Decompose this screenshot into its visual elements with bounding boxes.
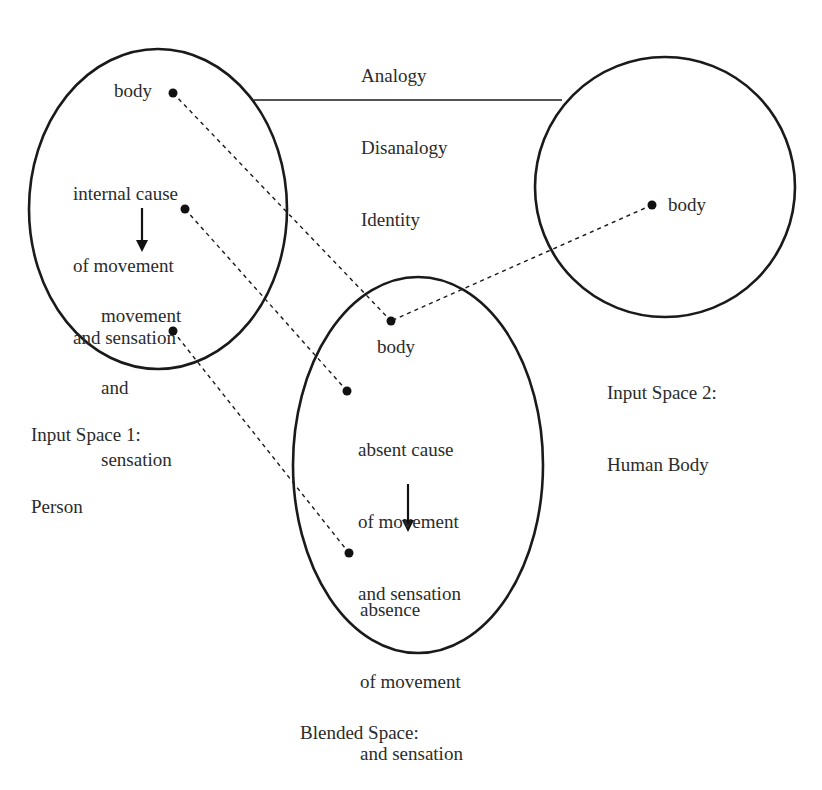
- text-line: of movement: [358, 510, 461, 534]
- text-line: movement: [101, 304, 181, 328]
- projection-cause-to-blend: [185, 209, 347, 391]
- projection-movement-to-blend: [173, 331, 349, 553]
- relation-disanalogy: Disanalogy: [361, 136, 448, 160]
- node-body-space-2: [648, 201, 657, 210]
- blend-body-label: body: [377, 335, 415, 359]
- caption-subtitle: Person: [31, 495, 141, 519]
- text-line: absent cause: [358, 438, 461, 462]
- node-absence: [345, 549, 354, 558]
- node-body-space-1: [169, 89, 178, 98]
- relation-analogy: Analogy: [361, 64, 448, 88]
- space-2-body-label: body: [668, 193, 706, 217]
- node-internal-cause: [181, 205, 190, 214]
- projection-body-1-to-blend: [173, 93, 391, 321]
- caption-title: Blended Space:: [300, 721, 525, 745]
- relation-identity: Identity: [361, 208, 448, 232]
- space-1-body-label: body: [114, 79, 152, 103]
- caption-title: Input Space 2:: [607, 381, 717, 405]
- input-space-2-circle: [535, 57, 795, 317]
- input-space-1-caption: Input Space 1: Person: [31, 375, 141, 543]
- blended-space-caption: Blended Space: Corpse—Human body whose i…: [300, 673, 525, 790]
- node-absent-cause: [343, 387, 352, 396]
- text-line: internal cause: [73, 182, 178, 206]
- node-body-blend: [387, 317, 396, 326]
- caption-title: Input Space 1:: [31, 423, 141, 447]
- caption-subtitle: Human Body: [607, 453, 717, 477]
- text-line: absence: [360, 598, 463, 622]
- relation-label: Analogy Disanalogy Identity: [361, 16, 448, 256]
- input-space-2-caption: Input Space 2: Human Body: [607, 333, 717, 501]
